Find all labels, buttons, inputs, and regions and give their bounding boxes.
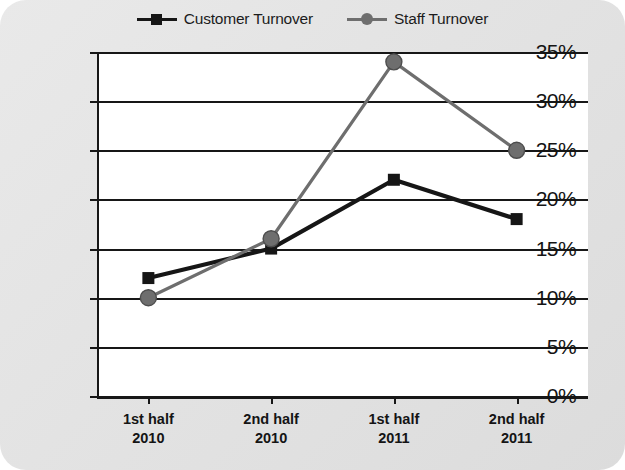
data-point-circle[interactable]: [263, 231, 279, 247]
series-line: [148, 180, 516, 278]
data-point-circle[interactable]: [509, 142, 525, 158]
x-label-line-2: 2011: [489, 429, 545, 448]
x-label-line-2: 2010: [123, 429, 174, 448]
data-point-circle[interactable]: [140, 290, 156, 306]
square-marker-icon: [137, 12, 177, 26]
x-label-line-1: 1st half: [368, 410, 419, 429]
y-axis-tick: [90, 249, 97, 251]
x-label-line-1: 1st half: [123, 410, 174, 429]
x-label-line-1: 2nd half: [243, 410, 299, 429]
x-label-line-1: 2nd half: [489, 410, 545, 429]
x-axis-tick: [271, 396, 273, 404]
legend-label-customer-turnover: Customer Turnover: [184, 10, 313, 28]
circle-marker-icon: [347, 12, 387, 26]
legend-item-staff-turnover[interactable]: Staff Turnover: [347, 10, 488, 28]
x-axis-tick-label: 2nd half2011: [489, 410, 545, 448]
series-customer-turnover: [142, 174, 522, 284]
x-label-line-2: 2011: [368, 429, 419, 448]
chart-page: Customer Turnover Staff Turnover 0%5%10%…: [0, 0, 625, 470]
x-axis-tick-label: 2nd half2010: [243, 410, 299, 448]
plot-wrapper: 0%5%10%15%20%25%30%35% 1st half20102nd h…: [97, 52, 588, 396]
legend-item-customer-turnover[interactable]: Customer Turnover: [137, 10, 313, 28]
y-axis-tick: [90, 347, 97, 349]
y-axis-tick: [90, 199, 97, 201]
y-axis-tick: [90, 150, 97, 152]
chart-legend: Customer Turnover Staff Turnover: [0, 10, 625, 28]
x-label-line-2: 2010: [243, 429, 299, 448]
x-axis-tick-label: 1st half2010: [123, 410, 174, 448]
x-axis-tick: [148, 396, 150, 404]
y-axis-tick: [90, 298, 97, 300]
series-line: [148, 62, 516, 298]
y-axis-tick: [90, 101, 97, 103]
y-axis-tick: [90, 52, 97, 54]
y-axis-tick: [90, 396, 97, 398]
legend-label-staff-turnover: Staff Turnover: [394, 10, 488, 28]
x-axis-tick: [394, 396, 396, 404]
x-axis-tick-label: 1st half2011: [368, 410, 419, 448]
series-plot: [97, 52, 588, 396]
data-point-circle[interactable]: [386, 54, 402, 70]
data-point-square[interactable]: [388, 174, 400, 186]
data-point-square[interactable]: [511, 213, 523, 225]
data-point-square[interactable]: [142, 272, 154, 284]
